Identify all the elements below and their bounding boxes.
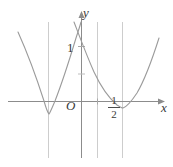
tick-marks [78, 47, 98, 105]
x-tick-label-one-half: 1 2 [107, 95, 121, 120]
origin-label: O [66, 99, 75, 112]
graph-figure: y x O 1 1 2 [0, 0, 173, 167]
fraction-denominator: 2 [107, 109, 121, 120]
x-axis-label: x [161, 101, 167, 114]
y-tick-label-one: 1 [67, 41, 74, 54]
x-axis [8, 99, 165, 105]
y-axis-label: y [83, 6, 89, 19]
fraction-numerator: 1 [107, 95, 121, 106]
coordinate-plot [0, 0, 173, 167]
y-axis [79, 11, 85, 158]
